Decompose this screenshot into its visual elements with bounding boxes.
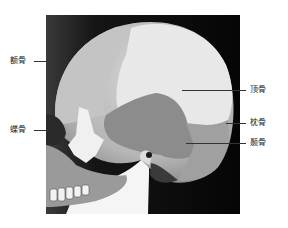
label-sphenoid-bone: 蝶骨: [10, 125, 26, 135]
label-temporal-bone: 颞骨: [250, 138, 266, 148]
label-occipital-bone: 枕骨: [250, 118, 266, 128]
leader-parietal: [182, 90, 246, 91]
label-frontal-bone: 额骨: [10, 56, 26, 66]
leader-temporal: [186, 143, 246, 144]
leader-frontal: [34, 61, 48, 62]
leader-occipital: [226, 123, 246, 124]
label-parietal-bone: 顶骨: [250, 85, 266, 95]
skull-photo: [46, 15, 240, 214]
leader-sphenoid: [34, 130, 48, 131]
